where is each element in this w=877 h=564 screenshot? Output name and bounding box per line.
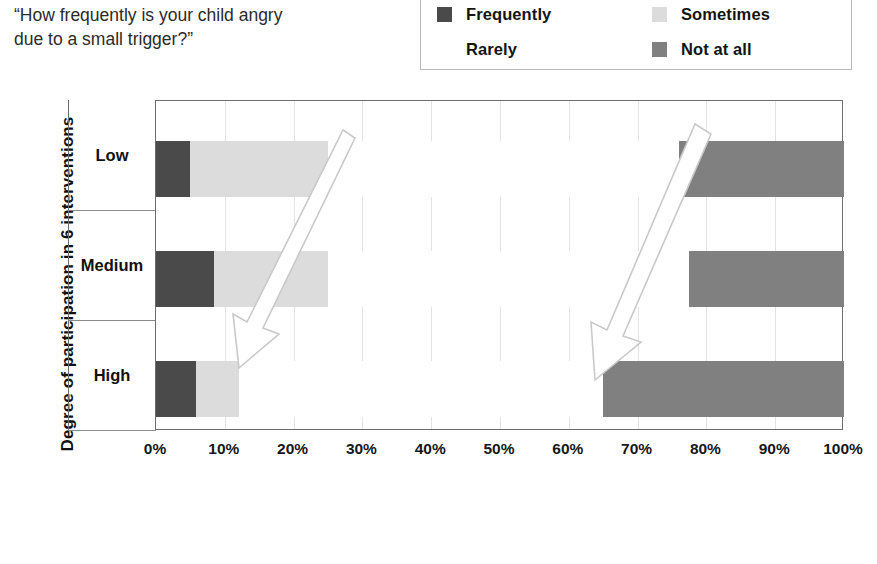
legend-item-frequently[interactable]: Frequently (421, 5, 636, 24)
bar-segment[interactable] (328, 141, 679, 197)
legend-swatch-rarely (437, 42, 452, 57)
bar-segment[interactable] (239, 361, 604, 417)
legend-item-sometimes[interactable]: Sometimes (636, 5, 851, 24)
x-axis-tick-label: 60% (538, 440, 598, 458)
bar-segment[interactable] (156, 361, 196, 417)
x-axis-tick-label: 100% (813, 440, 873, 458)
y-axis-spine (68, 100, 69, 431)
x-axis-tick-label: 50% (469, 440, 529, 458)
bar-segment[interactable] (603, 361, 844, 417)
x-axis-tick-label: 20% (263, 440, 323, 458)
x-axis-tick-label: 80% (675, 440, 735, 458)
bar-row (156, 141, 844, 197)
legend-item-rarely[interactable]: Rarely (421, 40, 636, 59)
x-axis-tick-label: 90% (744, 440, 804, 458)
x-axis-tick-label: 10% (194, 440, 254, 458)
bar-segment[interactable] (196, 361, 239, 417)
legend: Frequently Sometimes Rarely Not at all (420, 0, 852, 70)
x-axis-tick-label: 40% (400, 440, 460, 458)
stacked-bar-chart: Degree of participation in 6 interventio… (0, 84, 877, 504)
legend-swatch-not-at-all (652, 42, 667, 57)
y-axis-tick (68, 320, 156, 321)
bar-segment[interactable] (689, 251, 844, 307)
bar-segment[interactable] (679, 141, 844, 197)
x-axis-tick-label: 30% (331, 440, 391, 458)
legend-label-not-at-all: Not at all (681, 40, 752, 59)
x-axis-tick-label: 70% (607, 440, 667, 458)
y-axis-tick (68, 430, 156, 431)
category-label-low: Low (70, 146, 154, 165)
bar-segment[interactable] (214, 251, 328, 307)
bar-row (156, 251, 844, 307)
question-title: “How frequently is your child angry due … (14, 4, 414, 51)
bar-segment[interactable] (328, 251, 689, 307)
plot-area (155, 100, 843, 430)
y-axis-tick (68, 210, 156, 211)
bar-row (156, 361, 844, 417)
bar-segment[interactable] (190, 141, 328, 197)
bar-segment[interactable] (156, 251, 214, 307)
legend-label-rarely: Rarely (466, 40, 517, 59)
legend-swatch-sometimes (652, 7, 667, 22)
legend-item-not-at-all[interactable]: Not at all (636, 40, 851, 59)
category-label-medium: Medium (70, 256, 154, 275)
legend-swatch-frequently (437, 7, 452, 22)
bar-segment[interactable] (156, 141, 190, 197)
x-axis-tick-label: 0% (125, 440, 185, 458)
legend-label-frequently: Frequently (466, 5, 551, 24)
category-label-high: High (70, 366, 154, 385)
legend-label-sometimes: Sometimes (681, 5, 770, 24)
